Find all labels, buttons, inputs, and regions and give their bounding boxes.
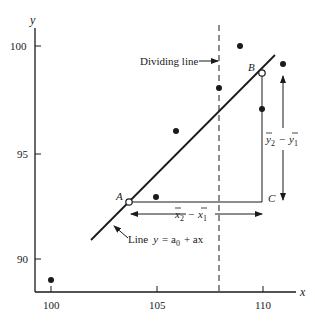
- line-eq-sub0: 0: [176, 239, 180, 248]
- special-points: A B C: [115, 61, 276, 205]
- data-point: [216, 85, 222, 91]
- x-diff-minus: −: [188, 208, 194, 220]
- y-tick-label-90: 90: [17, 253, 29, 265]
- point-a-marker: [126, 199, 132, 205]
- y-diff-sub2: 2: [271, 139, 275, 148]
- x-diff-label: x2−x1: [174, 208, 207, 223]
- data-point: [153, 194, 159, 200]
- dividing-line-label: Dividing line: [140, 55, 198, 67]
- x-tick-label-110: 110: [255, 299, 272, 311]
- x-tick-label-105: 105: [149, 299, 166, 311]
- dividing-line-annotation: Dividing line: [140, 55, 218, 67]
- line-eq-y: y: [152, 233, 158, 245]
- line-eq-rest: = a: [162, 233, 176, 245]
- y-tick-label-100: 100: [10, 40, 27, 52]
- y-axis-label: y: [29, 13, 36, 27]
- point-c-label: C: [268, 192, 276, 204]
- x-diff-sub2: 2: [180, 214, 184, 223]
- line-word: Line: [128, 233, 148, 245]
- x-tick-label-100: 100: [43, 299, 60, 311]
- x-ticks: 100 105 110: [43, 286, 272, 311]
- y-diff-annotation: y2−y1: [265, 76, 298, 200]
- fitted-line: [91, 55, 275, 240]
- scatter-chart: y x 100 95 90 100 105 110 Dividing line …: [0, 0, 315, 321]
- x-diff-annotation: x2−x1: [131, 208, 262, 223]
- point-a-label: A: [115, 190, 123, 202]
- line-equation-label: Liney= a0+ ax: [128, 233, 204, 248]
- y-ticks: 100 95 90: [10, 40, 41, 265]
- y-diff-sub1: 1: [294, 139, 298, 148]
- data-point: [237, 43, 243, 49]
- line-equation-pointer: [114, 226, 128, 238]
- x-diff-sub1: 1: [203, 214, 207, 223]
- y-tick-label-95: 95: [17, 148, 29, 160]
- y-diff-minus: −: [279, 133, 285, 145]
- line-eq-tail: + ax: [184, 233, 204, 245]
- y-diff-label: y2−y1: [265, 133, 298, 148]
- data-point: [280, 61, 286, 67]
- point-b-marker: [259, 70, 265, 76]
- x-axis-label: x: [299, 285, 306, 299]
- data-point: [259, 106, 265, 112]
- data-point: [48, 277, 54, 283]
- point-b-label: B: [248, 61, 255, 73]
- data-point: [173, 128, 179, 134]
- line-equation-annotation: Liney= a0+ ax: [114, 226, 204, 248]
